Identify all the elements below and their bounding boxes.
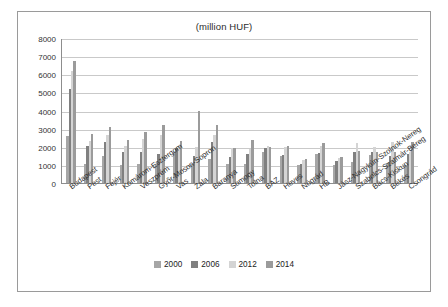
legend-label: 2012 — [239, 260, 257, 269]
bar-group — [293, 39, 311, 183]
legend-label: 2014 — [276, 260, 294, 269]
bar — [73, 61, 75, 183]
bar-group — [62, 39, 80, 183]
bar-group — [115, 39, 133, 183]
legend-item: 2012 — [229, 260, 257, 269]
bar-group — [258, 39, 276, 183]
bar-group — [98, 39, 116, 183]
legend-item: 2014 — [266, 260, 294, 269]
bar-group — [204, 39, 222, 183]
y-tick-label: 6000 — [18, 71, 56, 80]
chart-legend: 2000200620122014 — [18, 260, 430, 269]
bar-group — [311, 39, 329, 183]
legend-swatch — [191, 261, 198, 268]
chart-title: (million HUF) — [18, 21, 430, 32]
bar-group — [329, 39, 347, 183]
bar — [198, 111, 200, 183]
y-tick-label: 3000 — [18, 125, 56, 134]
bar-group — [80, 39, 98, 183]
chart-screenshot: (million HUF) 01000200030004000500060007… — [0, 0, 448, 307]
bar-group — [133, 39, 151, 183]
bar — [109, 127, 111, 183]
y-tick-label: 1000 — [18, 161, 56, 170]
y-tick-label: 5000 — [18, 89, 56, 98]
y-tick-label: 2000 — [18, 143, 56, 152]
bar — [216, 125, 218, 183]
legend-label: 2000 — [164, 260, 182, 269]
legend-label: 2006 — [201, 260, 219, 269]
y-tick-label: 8000 — [18, 35, 56, 44]
bar-group — [276, 39, 294, 183]
y-tick-label: 0 — [18, 180, 56, 189]
legend-item: 2006 — [191, 260, 219, 269]
bar-group — [222, 39, 240, 183]
y-tick-label: 7000 — [18, 53, 56, 62]
bar-group — [347, 39, 365, 183]
legend-swatch — [266, 261, 273, 268]
bar-group — [169, 39, 187, 183]
legend-swatch — [154, 261, 161, 268]
chart-frame: (million HUF) 01000200030004000500060007… — [17, 11, 431, 292]
legend-swatch — [229, 261, 236, 268]
y-tick-label: 4000 — [18, 107, 56, 116]
bar-group — [240, 39, 258, 183]
legend-item: 2000 — [154, 260, 182, 269]
